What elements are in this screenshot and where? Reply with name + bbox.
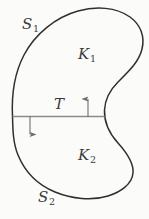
label-S1-subscript: 1 xyxy=(32,23,39,34)
label-upper-boundary-S1: S1 xyxy=(22,17,39,33)
label-lower-boundary-S2: S2 xyxy=(38,190,55,206)
label-lower-region-K2: K2 xyxy=(78,148,96,164)
figure-canvas: S1 K1 T K2 S2 xyxy=(0,0,149,219)
label-S2-base: S xyxy=(38,188,48,206)
label-S1-base: S xyxy=(22,15,32,33)
label-K1-base: K xyxy=(78,45,89,63)
region-outline-path xyxy=(12,8,143,199)
label-K2-base: K xyxy=(78,146,89,164)
label-upper-region-K1: K1 xyxy=(78,47,96,63)
label-T-base: T xyxy=(54,95,64,113)
label-divider-T: T xyxy=(54,97,64,112)
label-K2-subscript: 2 xyxy=(89,154,96,165)
label-K1-subscript: 1 xyxy=(89,53,96,64)
label-S2-subscript: 2 xyxy=(48,196,55,207)
